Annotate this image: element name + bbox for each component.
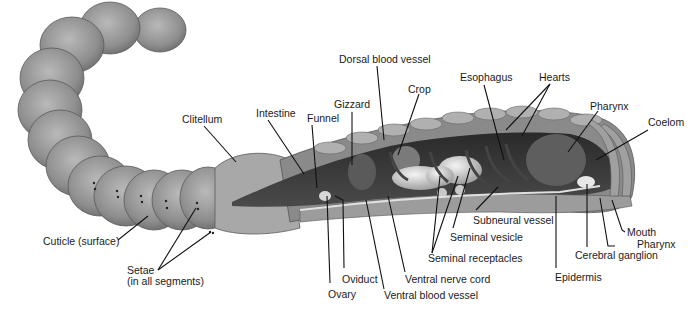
label-oviduct: Oviduct xyxy=(342,273,378,285)
label-funnel: Funnel xyxy=(307,112,339,124)
label-subneural-vessel: Subneural vessel xyxy=(473,214,554,226)
label-esophagus: Esophagus xyxy=(460,71,513,83)
label-ovary: Ovary xyxy=(328,288,357,300)
label-mouth: Mouth xyxy=(627,226,656,238)
pharynx-organ xyxy=(526,134,586,186)
label-seminal-vesicle: Seminal vesicle xyxy=(450,231,523,243)
label-cerebral-ganglion: Cerebral ganglion xyxy=(575,249,658,261)
label-cuticle: Cuticle (surface) xyxy=(43,235,119,247)
earthworm-diagram: Dorsal blood vessel Esophagus Hearts Cro… xyxy=(0,0,694,314)
diagram-canvas: Dorsal blood vessel Esophagus Hearts Cro… xyxy=(0,0,694,314)
ovary-organ xyxy=(319,191,331,201)
label-coelom: Coelom xyxy=(648,116,684,128)
label-setae-sub: (in all segments) xyxy=(127,275,204,287)
leader-setae-2 xyxy=(158,232,211,270)
label-pharynx-top: Pharynx xyxy=(590,100,629,112)
label-intestine: Intestine xyxy=(256,107,296,119)
leader-clitellum xyxy=(204,126,236,162)
label-hearts: Hearts xyxy=(539,71,570,83)
label-dorsal-blood-vessel: Dorsal blood vessel xyxy=(339,53,431,65)
label-crop: Crop xyxy=(408,83,431,95)
label-epidermis: Epidermis xyxy=(555,271,602,283)
label-seminal-receptacles: Seminal receptacles xyxy=(428,252,523,264)
label-gizzard: Gizzard xyxy=(334,98,370,110)
label-clitellum: Clitellum xyxy=(182,113,223,125)
label-ventral-blood-vessel: Ventral blood vessel xyxy=(384,289,478,301)
label-pharynx-bottom: Pharynx xyxy=(637,238,676,250)
label-ventral-nerve-cord: Ventral nerve cord xyxy=(405,273,490,285)
